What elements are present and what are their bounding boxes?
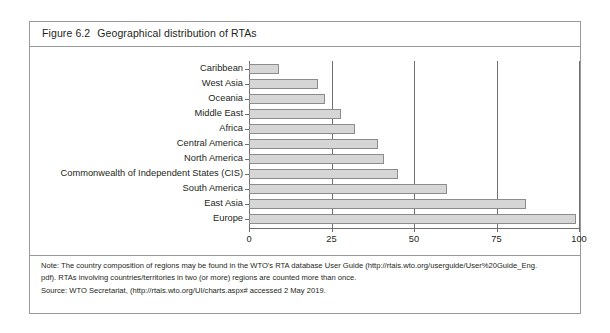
category-label: Africa — [219, 121, 243, 135]
figure-container: Figure 6.2Geographical distribution of R… — [29, 21, 581, 314]
bar — [249, 154, 384, 164]
bar — [249, 109, 341, 119]
category-label: South America — [183, 181, 243, 195]
bar-row: South America — [249, 183, 579, 198]
x-axis-tick — [414, 228, 415, 232]
bar — [249, 94, 325, 104]
bar — [249, 64, 279, 74]
bar-row: Africa — [249, 123, 579, 138]
bar-row: Oceania — [249, 93, 579, 108]
category-label: West Asia — [202, 76, 243, 90]
x-axis-tick-label: 100 — [571, 234, 587, 244]
bar-row: Central America — [249, 138, 579, 153]
x-axis-tick — [579, 228, 580, 232]
bar-row: Middle East — [249, 108, 579, 123]
chart-plot-area: CaribbeanWest AsiaOceaniaMiddle EastAfri… — [30, 47, 580, 255]
notes-divider — [30, 255, 580, 256]
source-line: Source: WTO Secretariat, (http://rtais.w… — [41, 285, 571, 296]
bar-row: North America — [249, 153, 579, 168]
x-axis-tick-label: 0 — [246, 234, 251, 244]
bar — [249, 139, 378, 149]
bar-row: Europe — [249, 213, 579, 228]
bar-row: East Asia — [249, 198, 579, 213]
figure-title-bar: Figure 6.2Geographical distribution of R… — [30, 22, 580, 47]
x-axis-tick — [497, 228, 498, 232]
figure-notes: Note: The country composition of regions… — [41, 260, 571, 297]
bar-row: Caribbean — [249, 63, 579, 78]
category-label: Commonwealth of Independent States (CIS) — [61, 166, 243, 180]
bar — [249, 169, 398, 179]
gridline — [579, 61, 580, 228]
category-label: North America — [184, 151, 243, 165]
category-label: East Asia — [204, 196, 243, 210]
figure-number: Figure 6.2 — [42, 27, 90, 39]
x-axis-tick-label: 25 — [326, 234, 336, 244]
bar — [249, 79, 318, 89]
note-line-1: Note: The country composition of regions… — [41, 260, 571, 271]
category-label: Caribbean — [200, 61, 243, 75]
category-label: Central America — [177, 136, 243, 150]
bar — [249, 184, 447, 194]
x-axis-tick — [332, 228, 333, 232]
page-title: Figure 6.2Geographical distribution of R… — [42, 27, 257, 39]
bar — [249, 199, 526, 209]
category-label: Oceania — [208, 91, 243, 105]
x-axis-tick-label: 50 — [409, 234, 419, 244]
bar — [249, 214, 576, 224]
note-line-2: pdf). RTAs involving countries/territori… — [41, 272, 571, 283]
category-label: Europe — [213, 211, 243, 225]
bar-row: West Asia — [249, 78, 579, 93]
bar — [249, 124, 355, 134]
x-axis-tick-label: 75 — [491, 234, 501, 244]
bar-series: CaribbeanWest AsiaOceaniaMiddle EastAfri… — [249, 63, 579, 228]
bar-row: Commonwealth of Independent States (CIS) — [249, 168, 579, 183]
category-label: Middle East — [194, 106, 243, 120]
figure-title-text: Geographical distribution of RTAs — [97, 27, 256, 39]
x-axis-tick — [249, 228, 250, 232]
